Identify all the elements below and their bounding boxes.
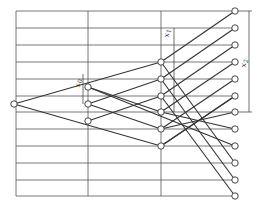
node-circle-icon [232, 126, 238, 132]
node-circle-icon [232, 93, 238, 99]
label-x0: x0 [73, 79, 84, 87]
node-circle-icon [85, 101, 91, 107]
node-circle-icon [11, 101, 17, 107]
node-circle-icon [232, 8, 238, 14]
node-circle-icon [232, 160, 238, 166]
node-circle-icon [158, 93, 164, 99]
node-circle-icon [158, 59, 164, 65]
label-x1: x1 [162, 29, 173, 37]
node-circle-icon [158, 76, 164, 82]
node-circle-icon [85, 84, 91, 90]
node-circle-icon [232, 76, 238, 82]
node-circle-icon [232, 59, 238, 65]
connection-edge [14, 62, 161, 104]
node-circle-icon [232, 109, 238, 115]
node-circle-icon [85, 118, 91, 124]
node-circle-icon [232, 193, 238, 199]
wiring-diagram [0, 0, 265, 214]
connection-edge [14, 104, 161, 146]
node-circle-icon [232, 177, 238, 183]
node-circle-icon [232, 143, 238, 149]
node-circle-icon [158, 109, 164, 115]
node-circle-icon [232, 42, 238, 48]
connection-edge [161, 45, 235, 96]
connection-edge [161, 79, 235, 180]
connection-edge [161, 62, 235, 163]
node-circle-icon [158, 126, 164, 132]
node-circle-icon [158, 143, 164, 149]
node-circle-icon [232, 25, 238, 31]
label-x2: x2 [239, 59, 250, 67]
